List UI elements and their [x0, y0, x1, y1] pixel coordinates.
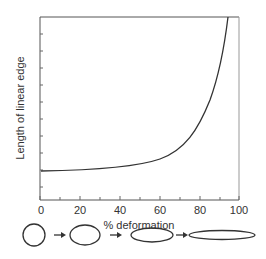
x-axis-ticks [40, 196, 239, 200]
x-tick-labels: 0 20 40 60 80 100 [38, 204, 248, 216]
shape-ellipse-3 [189, 231, 255, 240]
arrow-1 [54, 232, 66, 238]
x-tick-100: 100 [230, 204, 248, 216]
data-curve [41, 17, 228, 171]
y-axis-title: Length of linear edge [14, 56, 26, 159]
shape-circle [23, 224, 45, 246]
chart: 0 20 40 60 80 100 % deformation Length o… [0, 0, 266, 259]
shape-ellipse-1 [70, 225, 100, 245]
x-tick-40: 40 [114, 204, 126, 216]
x-tick-0: 0 [38, 204, 44, 216]
x-tick-80: 80 [194, 204, 206, 216]
x-tick-60: 60 [154, 204, 166, 216]
arrow-3 [176, 232, 188, 238]
plot-frame [40, 17, 239, 200]
arrow-2 [110, 232, 122, 238]
x-tick-20: 20 [74, 204, 86, 216]
